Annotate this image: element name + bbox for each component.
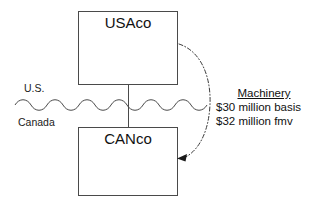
machinery-annotation-title: Machinery [216,86,312,100]
machinery-annotation-line-2: $32 million fmv [216,115,293,127]
machinery-annotation-line-1: $30 million basis [216,101,301,113]
transfer-arc [179,44,210,158]
transfer-arrowhead [177,154,187,162]
region-label-us: U.S. [24,82,44,94]
machinery-annotation: Machinery $30 million basis $32 million … [216,86,312,128]
region-label-canada: Canada [18,116,55,128]
canco-label: CANco [78,130,178,147]
border-wavy-line [15,100,207,111]
diagram-canvas: USAco CANco U.S. Canada Machinery $30 mi… [0,0,316,213]
usaco-label: USAco [78,14,178,31]
